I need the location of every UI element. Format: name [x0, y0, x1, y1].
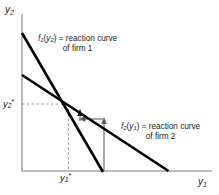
firm-2-curve-annotation: f2(y1) = reaction curve of firm 2 [121, 122, 200, 141]
convergence-arrows [77, 109, 107, 172]
firm-1-annotation-line-2: of firm 1 [38, 44, 117, 53]
equilibrium-guides [22, 104, 69, 171]
y-axis-label: y2 [5, 4, 14, 17]
firm-2-annotation-line-2: of firm 2 [121, 132, 200, 141]
x-equilibrium-tick-label: y1* [60, 172, 72, 184]
convergence-arrowhead-up-outer [101, 117, 107, 124]
x-axis-label: y1 [198, 176, 207, 189]
reaction-curves [22, 33, 169, 172]
firm-1-curve-annotation: f1(y2) = reaction curve of firm 1 [38, 34, 117, 53]
y-equilibrium-tick-label: y2* [3, 98, 15, 110]
firm-1-annotation-line-1: f1(y2) = reaction curve [38, 34, 117, 44]
firm-2-annotation-line-1: f2(y1) = reaction curve [121, 122, 200, 132]
reaction-curve-figure: y2 y1 y2* y1* f1(y2) = reaction curve of… [0, 0, 219, 195]
figure-canvas [0, 0, 219, 195]
